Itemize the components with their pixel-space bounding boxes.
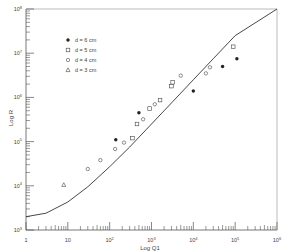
data-point <box>170 84 174 88</box>
data-point <box>122 141 125 144</box>
legend-label: d = 4 cm <box>75 57 97 63</box>
data-point <box>192 89 195 92</box>
legend-marker <box>66 58 69 61</box>
y-axis-label: Log R <box>8 109 14 126</box>
plot-frame <box>26 9 277 230</box>
data-point <box>141 118 144 121</box>
chart: 110102103104105106 103104105106107108 d … <box>0 0 290 252</box>
data-point <box>171 80 175 84</box>
data-point <box>137 111 140 114</box>
x-tick-label: 102 <box>105 236 114 244</box>
data-point <box>62 183 66 187</box>
y-tick-label: 106 <box>14 93 23 101</box>
legend-marker <box>66 68 70 72</box>
data-point <box>179 74 182 77</box>
legend-label: d = 3 cm <box>75 67 97 73</box>
legend-marker <box>66 48 70 52</box>
y-tick-label: 103 <box>14 226 23 234</box>
data-point <box>153 103 156 106</box>
x-axis: 110102103104105106 <box>24 222 281 243</box>
x-tick-label: 10 <box>65 237 71 243</box>
x-tick-label: 104 <box>189 236 198 244</box>
x-tick-label: 103 <box>147 236 156 244</box>
data-point <box>148 107 152 111</box>
data-point <box>131 136 135 140</box>
y-tick-label: 108 <box>14 5 23 13</box>
legend-label: d = 5 cm <box>75 47 97 53</box>
x-tick-label: 106 <box>273 236 282 244</box>
data-point <box>208 66 211 69</box>
x-tick-label: 105 <box>231 236 240 244</box>
data-point <box>221 65 224 68</box>
data-point <box>113 147 116 150</box>
data-point <box>204 72 207 75</box>
data-point <box>114 138 117 141</box>
y-tick-label: 107 <box>14 49 23 57</box>
data-point <box>135 122 139 126</box>
chart-svg: 110102103104105106 103104105106107108 d … <box>0 0 290 252</box>
y-axis: 103104105106107108 <box>14 5 34 234</box>
data-point <box>99 158 102 161</box>
data-point <box>235 57 238 60</box>
x-axis-label: Log Q1 <box>140 245 160 251</box>
legend-label: d = 6 cm <box>75 37 97 43</box>
legend: d = 6 cmd = 5 cmd = 4 cmd = 3 cm <box>66 37 97 73</box>
legend-marker <box>66 38 69 41</box>
y-tick-label: 104 <box>14 181 23 189</box>
y-tick-label: 105 <box>14 137 23 145</box>
data-point <box>231 45 235 49</box>
x-tick-label: 1 <box>24 237 27 243</box>
data-point <box>158 98 162 102</box>
data-point <box>86 167 89 170</box>
